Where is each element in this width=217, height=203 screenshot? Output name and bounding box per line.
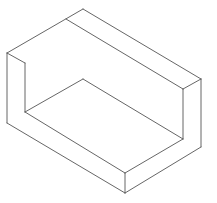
isometric-l-block-drawing	[0, 0, 217, 203]
edge-ridge	[66, 19, 183, 89]
edge-bottom-left	[7, 123, 125, 193]
edge-bottom-right	[125, 147, 201, 193]
edge-right-top	[183, 79, 201, 89]
edge-floor-back-left	[25, 79, 83, 112]
l-block-svg	[0, 0, 217, 203]
edge-left-top-slope	[7, 53, 25, 63]
edge-floor-front-right	[125, 139, 183, 173]
edge-top-left	[7, 9, 83, 53]
edge-top-back	[83, 9, 201, 79]
edge-floor-back-right	[83, 79, 183, 139]
